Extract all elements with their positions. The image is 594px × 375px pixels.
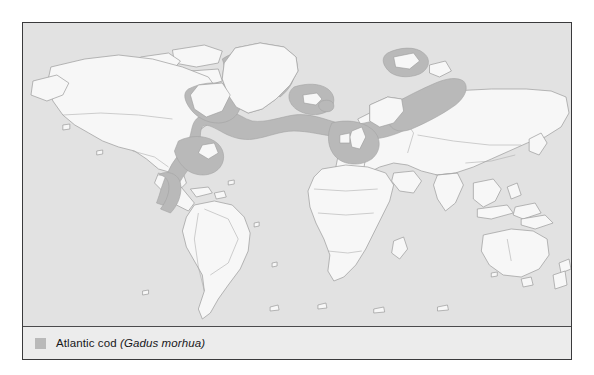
world-map-svg [23,23,571,326]
legend-common-name: Atlantic cod [56,337,117,349]
legend-label: Atlantic cod (Gadus morhua) [56,337,205,349]
legend-scientific-name: (Gadus morhua) [120,337,205,349]
cutout-ireland-land [340,133,350,143]
land-island-speck-9 [97,150,103,155]
land-island-speck-10 [63,124,70,130]
legend-color-swatch [35,338,46,349]
world-map [23,23,571,326]
land-island-speck-11 [491,272,497,277]
distribution-map-figure: Atlantic cod (Gadus morhua) [22,22,572,360]
land-island-speck-2 [254,222,259,227]
range-faroe [319,100,334,112]
land-island-speck-3 [272,262,277,267]
land-island-speck-4 [143,290,149,295]
land-island-speck-1 [228,180,234,185]
map-legend: Atlantic cod (Gadus morhua) [23,326,571,359]
land-tasmania [521,277,533,287]
